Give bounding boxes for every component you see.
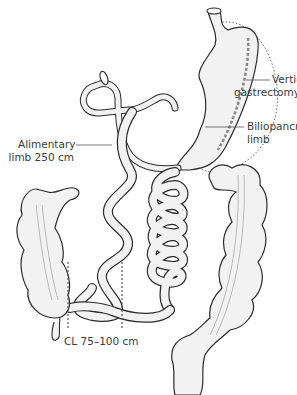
label-common-limb-text: CL 75–100 cm <box>64 335 139 348</box>
label-common-limb: CL 75–100 cm <box>64 335 139 348</box>
label-vertical-gastrectomy-line1: Vertical <box>272 73 297 86</box>
label-biliopancreatic-limb-2: limb <box>247 133 270 146</box>
biliopancreatic-coils <box>152 172 184 310</box>
label-biliopancreatic-limb: Biliopancreatic <box>247 120 297 133</box>
bpd-ds-diagram <box>0 0 297 395</box>
label-alimentary-limb-2: limb 250 cm <box>4 151 74 164</box>
label-biliopancreatic-line2: limb <box>247 133 270 146</box>
esophagus-opening <box>207 8 221 14</box>
label-biliopancreatic-line1: Biliopancreatic <box>247 120 297 133</box>
label-alimentary-line2: limb 250 cm <box>4 151 74 164</box>
label-vertical-gastrectomy-2: gastrectomy <box>234 86 297 99</box>
label-alimentary-line1: Alimentary <box>18 138 74 151</box>
ascending-colon <box>17 188 79 318</box>
label-vertical-gastrectomy-line2: gastrectomy <box>234 86 297 99</box>
label-alimentary-limb: Alimentary <box>18 138 74 151</box>
appendix <box>52 318 60 340</box>
label-vertical-gastrectomy: Vertical <box>272 73 297 86</box>
